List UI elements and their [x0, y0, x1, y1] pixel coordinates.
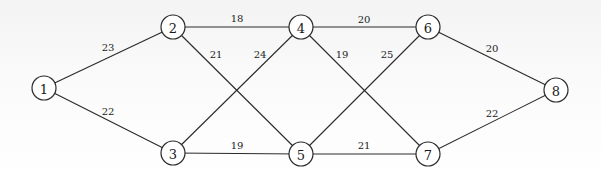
edge-weight-5-7: 21 — [358, 140, 371, 151]
edge-weight-1-2: 23 — [102, 42, 115, 53]
edge-weight-4-7: 19 — [336, 49, 349, 60]
edge-1-3 — [44, 88, 173, 153]
edge-6-8 — [428, 27, 556, 90]
node-7: 7 — [416, 142, 440, 166]
edges — [44, 27, 556, 154]
graph-svg: 232218212419201925212022 12345678 — [0, 0, 601, 181]
node-2: 2 — [161, 15, 185, 39]
node-8: 8 — [544, 78, 568, 102]
node-3: 3 — [161, 141, 185, 165]
nodes: 12345678 — [32, 15, 568, 166]
edge-weight-2-4: 18 — [231, 13, 244, 24]
edge-weight-3-5: 19 — [231, 140, 244, 151]
node-label: 6 — [424, 21, 432, 36]
node-1: 1 — [32, 76, 56, 100]
edge-weight-5-6: 25 — [381, 49, 394, 60]
edge-7-8 — [428, 90, 556, 154]
node-6: 6 — [416, 15, 440, 39]
node-4: 4 — [289, 15, 313, 39]
node-label: 8 — [552, 84, 560, 99]
edge-weight-4-6: 20 — [358, 14, 371, 25]
node-label: 1 — [40, 82, 48, 97]
node-label: 3 — [169, 147, 177, 162]
edge-3-5 — [173, 153, 301, 154]
node-label: 2 — [169, 21, 177, 36]
graph-diagram: 232218212419201925212022 12345678 — [0, 0, 601, 181]
node-label: 4 — [297, 21, 305, 36]
edge-weight-1-3: 22 — [102, 106, 115, 117]
edge-weight-3-4: 24 — [254, 49, 267, 60]
edge-weight-6-8: 20 — [486, 43, 499, 54]
node-label: 7 — [424, 148, 432, 163]
node-5: 5 — [289, 142, 313, 166]
edge-1-2 — [44, 27, 173, 88]
node-label: 5 — [297, 148, 305, 163]
edge-weight-7-8: 22 — [486, 108, 499, 119]
edge-weight-2-5: 21 — [210, 49, 223, 60]
